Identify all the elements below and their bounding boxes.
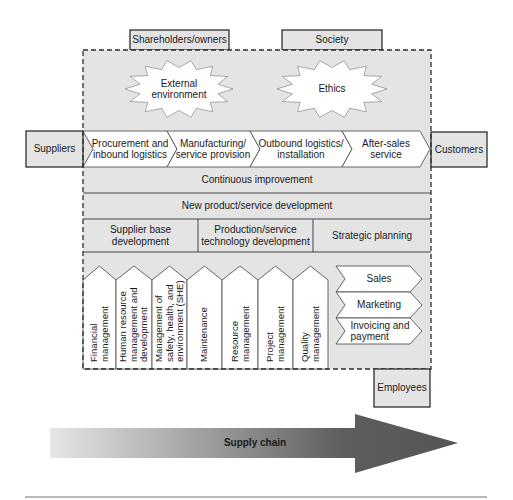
suppliers-label: Suppliers xyxy=(26,131,83,167)
society-text: Society xyxy=(316,34,349,46)
customers-label: Customers xyxy=(431,132,487,167)
label-line: Supplier base xyxy=(110,224,171,236)
strategic-planning-label: Strategic planning xyxy=(313,219,431,252)
label-line: installation xyxy=(258,149,343,161)
label-line: Sales xyxy=(366,273,391,285)
continuous-improvement-label: Continuous improvement xyxy=(83,167,431,193)
maintenance-label: Maintenance xyxy=(187,282,222,362)
label-line: environment (SHE) xyxy=(175,282,186,362)
label-line: payment xyxy=(351,331,410,343)
financial-management-label: Financial management xyxy=(83,282,116,362)
label-line: Outbound logistics/ xyxy=(258,138,343,150)
label-line: Ethics xyxy=(318,83,345,95)
label-line: External xyxy=(151,78,206,90)
label-line: Continuous improvement xyxy=(201,174,312,186)
supplier-base-development-label: Supplier base development xyxy=(83,219,198,252)
label-line: Invoicing and xyxy=(351,320,410,332)
label-line: Resource xyxy=(230,282,241,362)
label-line: management xyxy=(100,282,111,362)
shareholders-text: Shareholders/owners xyxy=(132,34,227,46)
employees-text: Employees xyxy=(377,382,426,394)
outbound-logistics-label: Outbound logistics/ installation xyxy=(256,131,346,167)
production-technology-label: Production/service technology developmen… xyxy=(198,219,313,252)
project-management-label: Project management xyxy=(258,282,293,362)
manufacturing-label: Manufacturing/ service provision xyxy=(173,131,253,167)
ethics-label: Ethics xyxy=(282,72,382,106)
label-line: Strategic planning xyxy=(332,230,412,242)
employees-label: Employees xyxy=(374,369,430,407)
hr-management-label: Human resource management and developmen… xyxy=(116,282,152,362)
label-line: technology development xyxy=(201,236,309,248)
external-environment-label: External environment xyxy=(129,72,229,106)
label-line: Maintenance xyxy=(199,282,210,362)
label-line: Manufacturing/ xyxy=(176,138,250,150)
supply-chain-text: Supply chain xyxy=(224,437,286,449)
label-line: management xyxy=(276,282,287,362)
procurement-label: Procurement and inbound logistics xyxy=(90,131,170,167)
invoicing-label: Invoicing and payment xyxy=(345,318,415,344)
label-line: inbound logistics xyxy=(92,149,169,161)
label-line: Marketing xyxy=(357,299,401,311)
supply-chain-label: Supply chain xyxy=(200,433,310,453)
label-line: After-sales xyxy=(362,138,410,150)
quality-management-label: Quality management xyxy=(293,282,328,362)
label-line: management xyxy=(240,282,251,362)
suppliers-text: Suppliers xyxy=(34,143,76,155)
marketing-label: Marketing xyxy=(345,292,413,318)
she-management-label: Management of safety, health, and enviro… xyxy=(152,282,187,362)
business-process-diagram: Shareholders/owners Society External env… xyxy=(0,0,513,500)
label-line: service xyxy=(362,149,410,161)
label-line: environment xyxy=(151,89,206,101)
label-line: development xyxy=(139,282,150,362)
shareholders-label: Shareholders/owners xyxy=(130,30,229,50)
label-line: management xyxy=(311,282,322,362)
after-sales-label: After-sales service xyxy=(350,131,422,167)
label-line: service provision xyxy=(176,149,250,161)
society-label: Society xyxy=(282,30,382,50)
label-line: New product/service development xyxy=(182,200,333,212)
customers-text: Customers xyxy=(435,144,483,156)
label-line: development xyxy=(110,236,171,248)
resource-management-label: Resource management xyxy=(222,282,258,362)
sales-label: Sales xyxy=(345,266,413,292)
label-line: Production/service xyxy=(201,224,309,236)
new-product-development-label: New product/service development xyxy=(83,193,431,219)
label-line: Procurement and xyxy=(92,138,169,150)
